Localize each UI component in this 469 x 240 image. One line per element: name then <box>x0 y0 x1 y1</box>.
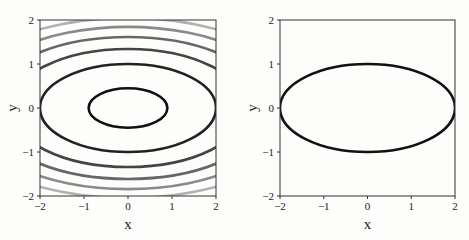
y-tick-label: 2 <box>29 14 35 26</box>
y-tick-label: 2 <box>269 14 275 26</box>
x-tick-label: −2 <box>34 200 46 212</box>
y-axis-label: y <box>4 104 20 112</box>
figure: −2−1012−2−1012xy −2−1012−2−1012xy <box>0 0 469 240</box>
contour-level-1.8 <box>10 49 246 167</box>
y-tick-label: −2 <box>262 190 274 202</box>
x-tick-label: −1 <box>78 200 90 212</box>
contour-level-1 <box>280 64 455 152</box>
x-tick-label: 2 <box>213 200 219 212</box>
x-tick-label: 1 <box>409 200 415 212</box>
y-tick-label: −1 <box>262 146 274 158</box>
y-tick-label: 0 <box>29 102 35 114</box>
level-set-plot-right: −2−1012−2−1012xy <box>244 14 457 232</box>
x-tick-label: 2 <box>452 200 458 212</box>
contour-level-1 <box>40 64 216 152</box>
y-axis-label: y <box>244 104 260 112</box>
contour-level-4.2 <box>0 18 308 198</box>
y-tick-label: −2 <box>22 190 34 202</box>
y-tick-label: 1 <box>29 58 35 70</box>
contour-level-0.2 <box>89 88 168 127</box>
x-axis-label: x <box>364 216 372 232</box>
y-tick-label: −1 <box>22 146 34 158</box>
y-tick-label: 1 <box>269 58 275 70</box>
x-tick-label: −1 <box>318 200 330 212</box>
axes-frame <box>40 20 216 196</box>
x-tick-label: 1 <box>169 200 175 212</box>
x-tick-label: −2 <box>274 200 286 212</box>
y-tick-label: 0 <box>269 102 275 114</box>
x-tick-label: 0 <box>365 200 371 212</box>
x-tick-label: 0 <box>125 200 131 212</box>
contour-lines <box>280 64 455 152</box>
x-axis-label: x <box>124 216 132 232</box>
axes-frame <box>280 20 455 196</box>
contour-lines <box>0 18 308 198</box>
